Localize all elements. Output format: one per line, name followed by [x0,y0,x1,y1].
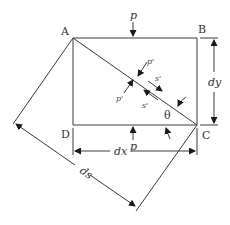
point-b-label: B [198,23,206,36]
ds-dimension [16,124,135,206]
p-prime-lower-arrow [124,80,133,93]
dx-label: dx [114,145,128,158]
inclined-plane-ac [73,38,197,125]
ds-label: ds [77,164,95,182]
theta-arrow [166,128,170,139]
point-a-label: A [60,25,70,38]
p-prime-upper-label: p' [147,57,154,66]
p-top-label: p [130,9,137,22]
stress-element-diagram: ds dy dx p p θ p' p' [0,0,230,225]
s-prime-lower-label: s' [142,101,148,110]
s-prime-lower-arrow [144,90,158,100]
angle-indicator-arrow [178,97,186,106]
p-bottom-label: p [130,140,137,153]
point-c-label: C [202,129,210,142]
s-prime-upper-label: s' [155,74,161,83]
rotated-edge-c [136,125,197,211]
theta-label: θ [164,109,171,122]
point-d-label: D [61,128,70,141]
p-prime-upper-arrow [138,62,147,76]
p-prime-lower-label: p' [116,94,123,103]
dy-label: dy [208,76,222,89]
rotated-edge-a [13,38,73,124]
